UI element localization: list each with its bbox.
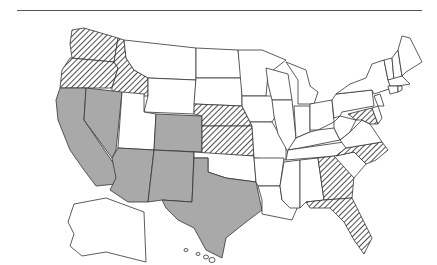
state-co bbox=[154, 114, 202, 152]
state-wy bbox=[144, 78, 196, 114]
state-or bbox=[60, 58, 118, 88]
state-wa bbox=[70, 28, 118, 62]
state-nd bbox=[196, 48, 242, 78]
map-figure bbox=[0, 0, 437, 265]
state-nj bbox=[374, 94, 384, 106]
state-oh bbox=[310, 100, 334, 130]
state-sd bbox=[194, 78, 242, 106]
state-ks bbox=[202, 126, 254, 156]
state-fl bbox=[306, 198, 372, 254]
state-az bbox=[110, 148, 154, 202]
state-nm bbox=[148, 150, 194, 202]
state-ct bbox=[388, 86, 398, 94]
state-ar bbox=[254, 158, 284, 186]
state-ri bbox=[398, 86, 402, 92]
us-map bbox=[0, 0, 437, 265]
state-wi bbox=[266, 68, 292, 100]
state-ms bbox=[280, 160, 300, 208]
state-me bbox=[398, 36, 422, 76]
state-ny bbox=[336, 60, 392, 94]
state-ak bbox=[68, 198, 146, 262]
